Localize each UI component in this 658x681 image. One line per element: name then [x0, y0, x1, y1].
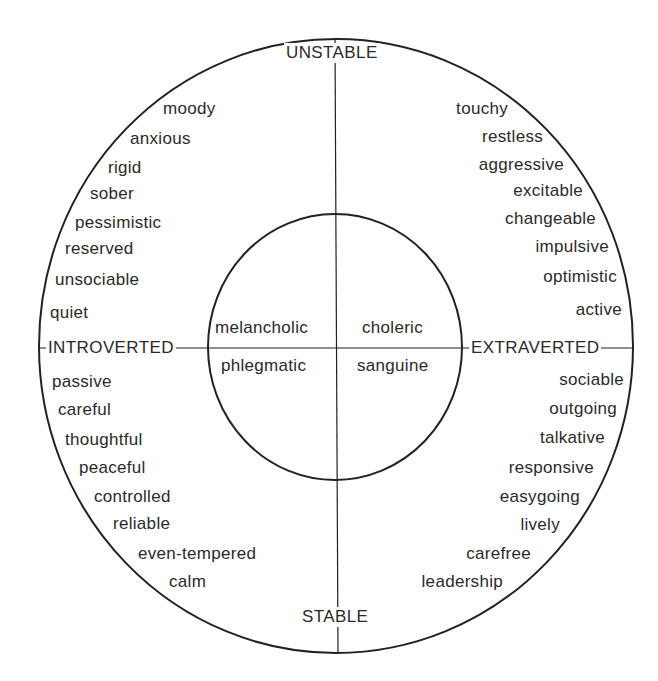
trait-controlled: controlled — [94, 487, 171, 507]
trait-quiet: quiet — [50, 303, 88, 323]
axis-label-stable: STABLE — [300, 607, 370, 627]
trait-excitable: excitable — [513, 181, 583, 201]
vertical-axis-line — [335, 39, 338, 653]
trait-reliable: reliable — [113, 514, 170, 534]
temperament-melancholic: melancholic — [215, 318, 308, 338]
trait-even-tempered: even-tempered — [138, 544, 256, 564]
trait-reserved: reserved — [65, 239, 134, 259]
trait-impulsive: impulsive — [535, 237, 609, 257]
trait-touchy: touchy — [456, 99, 508, 119]
trait-aggressive: aggressive — [479, 155, 564, 175]
temperament-phlegmatic: phlegmatic — [221, 356, 306, 376]
trait-anxious: anxious — [130, 129, 191, 149]
axis-label-introverted: INTROVERTED — [46, 338, 176, 358]
trait-careful: careful — [58, 400, 111, 420]
trait-active: active — [576, 300, 622, 320]
trait-carefree: carefree — [466, 544, 531, 564]
trait-sober: sober — [90, 184, 134, 204]
trait-passive: passive — [52, 372, 112, 392]
trait-lively: lively — [520, 515, 560, 535]
trait-rigid: rigid — [108, 158, 142, 178]
trait-restless: restless — [482, 127, 543, 147]
trait-sociable: sociable — [559, 370, 624, 390]
trait-changeable: changeable — [505, 209, 596, 229]
trait-outgoing: outgoing — [549, 399, 617, 419]
trait-optimistic: optimistic — [543, 267, 617, 287]
trait-thoughtful: thoughtful — [65, 430, 143, 450]
temperament-sanguine: sanguine — [357, 356, 428, 376]
trait-talkative: talkative — [540, 428, 605, 448]
trait-moody: moody — [163, 99, 216, 119]
trait-pessimistic: pessimistic — [75, 213, 161, 233]
inner-circle — [208, 214, 462, 480]
axis-label-unstable: UNSTABLE — [284, 43, 380, 63]
axis-label-extraverted: EXTRAVERTED — [469, 338, 601, 358]
temperament-choleric: choleric — [362, 318, 423, 338]
trait-responsive: responsive — [509, 458, 594, 478]
trait-unsociable: unsociable — [55, 270, 139, 290]
trait-easygoing: easygoing — [500, 487, 580, 507]
trait-leadership: leadership — [422, 572, 503, 592]
trait-calm: calm — [169, 572, 206, 592]
trait-peaceful: peaceful — [79, 458, 146, 478]
